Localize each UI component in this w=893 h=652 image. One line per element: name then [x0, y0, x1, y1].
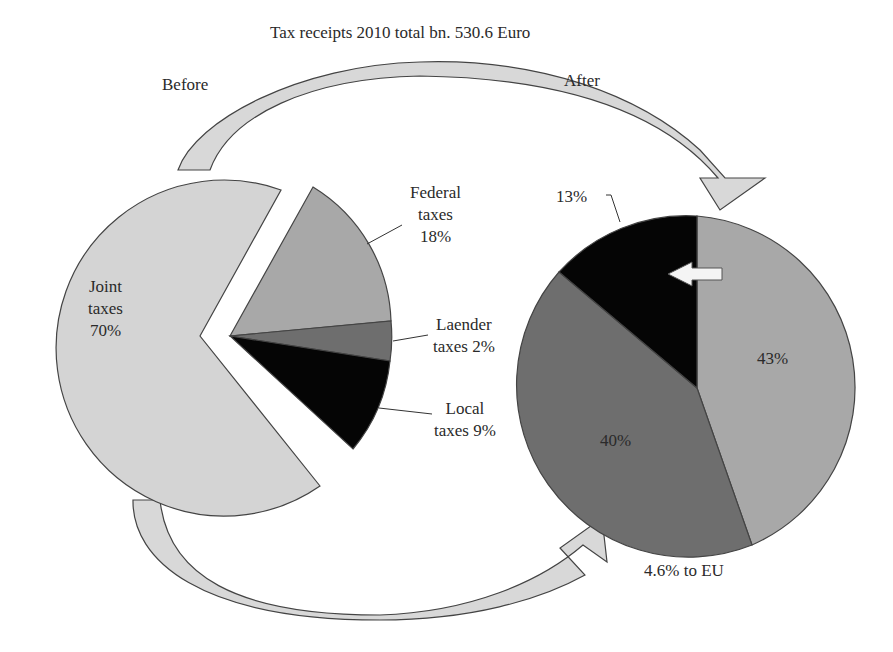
- label-federal: Federal taxes 18%: [410, 182, 461, 248]
- label-local: Local taxes 9%: [434, 398, 496, 442]
- label-laender-line1: Laender: [433, 314, 495, 336]
- label-federal-line2: taxes: [410, 204, 461, 226]
- label-joint-line3: 70%: [88, 320, 123, 342]
- label-40: 40%: [600, 430, 631, 452]
- chart-title: Tax receipts 2010 total bn. 530.6 Euro: [270, 22, 530, 44]
- leader-laender: [393, 335, 428, 341]
- label-local-line1: Local: [434, 398, 496, 420]
- label-laender: Laender taxes 2%: [433, 314, 495, 358]
- label-federal-line3: 18%: [410, 226, 461, 248]
- label-eu: 4.6% to EU: [644, 560, 724, 582]
- label-before: Before: [162, 74, 208, 96]
- bottom-flow-arrow: [133, 500, 607, 620]
- label-after: After: [564, 70, 600, 92]
- leader-13: [606, 195, 620, 222]
- label-laender-line2: taxes 2%: [433, 336, 495, 358]
- label-federal-line1: Federal: [410, 182, 461, 204]
- label-joint-line2: taxes: [88, 298, 123, 320]
- leader-federal: [367, 225, 402, 244]
- label-joint: Joint taxes 70%: [88, 276, 123, 342]
- label-joint-line1: Joint: [88, 276, 123, 298]
- leader-local: [379, 408, 432, 414]
- label-local-line2: taxes 9%: [434, 420, 496, 442]
- label-13: 13%: [556, 186, 587, 208]
- label-43: 43%: [757, 348, 788, 370]
